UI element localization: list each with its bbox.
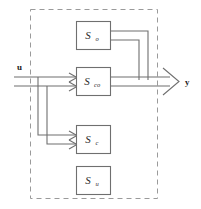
block-s-co-subscript: co bbox=[94, 81, 101, 88]
input-signal-lines bbox=[14, 77, 76, 144]
block-s-c[interactable] bbox=[77, 126, 111, 154]
sco-output-lines bbox=[110, 77, 170, 86]
output-label-y: y bbox=[185, 77, 190, 87]
input-label-u: u bbox=[17, 62, 22, 72]
block-s-c-subscript: c bbox=[96, 139, 99, 146]
diagram-canvas: S o S co S c S u u y bbox=[0, 0, 201, 209]
block-s-o[interactable] bbox=[77, 22, 111, 50]
arrowhead-into-sc bbox=[69, 131, 77, 149]
arrowhead-into-sco bbox=[69, 73, 77, 91]
so-output-lines bbox=[110, 31, 148, 80]
block-s-co-label: S bbox=[84, 75, 90, 87]
block-s-u-label: S bbox=[85, 174, 91, 186]
block-s-o-label: S bbox=[85, 29, 91, 41]
kalman-decomposition-diagram: S o S co S c S u u y bbox=[0, 0, 201, 209]
block-s-c-label: S bbox=[85, 133, 91, 145]
arrowhead-output-y bbox=[163, 68, 179, 95]
block-s-u[interactable] bbox=[77, 167, 111, 195]
